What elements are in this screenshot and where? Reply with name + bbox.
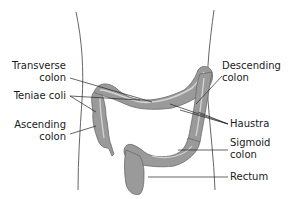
label-teniae-coli-line1: Teniae coli (4, 90, 66, 102)
leader-ascending-colon (70, 126, 96, 134)
colon-diagram: Transverse colon Teniae coli Ascending c… (0, 0, 290, 199)
label-transverse-colon-line1: Transverse (12, 60, 66, 72)
label-rectum: Rectum (230, 171, 268, 183)
label-ascending-colon: Ascending colon (10, 119, 66, 143)
label-rectum-line1: Rectum (230, 171, 268, 183)
label-descending-colon-line1: Descending (222, 60, 281, 72)
label-descending-colon: Descending colon (222, 60, 281, 84)
label-sigmoid-colon: Sigmoid colon (230, 137, 270, 161)
label-transverse-colon: Transverse colon (12, 60, 66, 84)
label-ascending-colon-line1: Ascending (10, 119, 66, 131)
label-haustra-line1: Haustra (230, 118, 269, 130)
body-outline-left (76, 12, 83, 190)
label-sigmoid-colon-line1: Sigmoid (230, 137, 270, 149)
body-outline-right (207, 10, 215, 190)
label-teniae-coli: Teniae coli (4, 90, 66, 102)
label-sigmoid-colon-line2: colon (230, 149, 270, 161)
label-ascending-colon-line2: colon (10, 131, 66, 143)
ascending-colon (92, 92, 114, 156)
label-haustra: Haustra (230, 118, 269, 130)
label-descending-colon-line2: colon (222, 72, 281, 84)
label-transverse-colon-line2: colon (12, 72, 66, 84)
